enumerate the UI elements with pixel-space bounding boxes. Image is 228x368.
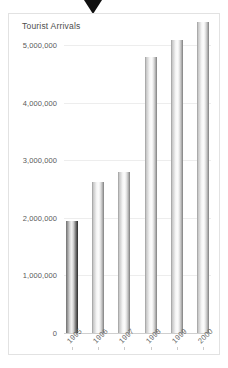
bar-1997[interactable]: [118, 172, 130, 333]
x-tick-mark: [72, 347, 73, 350]
bar-1998[interactable]: [145, 57, 157, 333]
x-tick-mark: [151, 347, 152, 350]
x-tick-mark: [203, 347, 204, 350]
bars-group: [9, 14, 219, 347]
chart-frame: Tourist Arrivals 01,000,0002,000,0003,00…: [8, 13, 220, 355]
x-tick-mark: [177, 347, 178, 350]
x-tick-mark: [124, 347, 125, 350]
x-tick-mark: [98, 347, 99, 350]
bar-2000[interactable]: [197, 22, 209, 333]
bar-1995[interactable]: [66, 221, 78, 333]
bar-1996[interactable]: [92, 182, 104, 333]
down-triangle-marker: [84, 0, 102, 14]
bar-1999[interactable]: [171, 40, 183, 333]
